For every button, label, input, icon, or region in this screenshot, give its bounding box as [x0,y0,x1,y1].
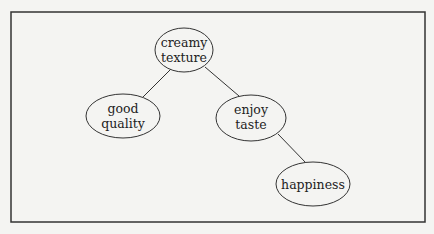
node-enjoy-taste: enjoy taste [216,95,286,141]
node-label-line2: quality [101,116,146,131]
concept-diagram: creamy texture good quality enjoy taste … [0,0,434,234]
node-label-line1: happiness [281,177,345,192]
node-creamy-texture: creamy texture [155,28,213,72]
node-label-line1: enjoy [234,102,269,117]
node-label-line2: texture [161,50,207,65]
edge-creamy-to-enjoy [205,67,239,96]
edge-creamy-to-good [143,68,172,97]
node-happiness: happiness [276,162,350,206]
edge-enjoy-to-happiness [278,134,306,163]
node-label-line2: taste [235,117,266,132]
node-good-quality: good quality [86,94,160,138]
node-label-line1: good [107,101,138,116]
node-label-line1: creamy [161,35,209,50]
